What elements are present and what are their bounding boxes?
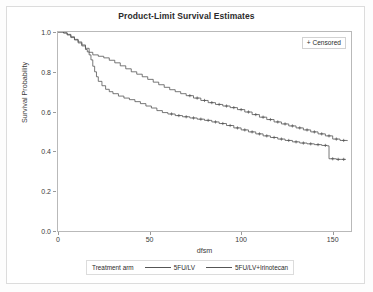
censor-mark <box>262 116 265 119</box>
censor-mark <box>294 140 297 143</box>
y-tick-label: 0.8 <box>25 68 51 75</box>
y-tick-label: 0.6 <box>25 108 51 115</box>
y-tick-label: 0.2 <box>25 188 51 195</box>
x-tick-label: 0 <box>43 236 73 243</box>
censor-mark <box>251 130 254 133</box>
legend-line-icon <box>145 267 171 268</box>
censor-mark <box>243 128 246 131</box>
censor-mark <box>240 108 243 111</box>
censor-mark <box>302 141 305 144</box>
legend-title: Treatment arm <box>92 264 134 271</box>
censor-mark <box>320 132 323 135</box>
y-tick-mark <box>53 151 56 152</box>
censor-mark <box>203 99 206 102</box>
censor-mark <box>269 118 272 121</box>
censor-mark <box>287 139 290 142</box>
censor-mark <box>214 120 217 123</box>
legend-entry-1: 5FU/LV <box>145 264 195 271</box>
censored-legend-label: + Censored <box>307 39 341 46</box>
censor-mark <box>316 143 319 146</box>
censor-mark <box>309 142 312 145</box>
legend-entry-2: 5FU/LV+Irinotecan <box>206 264 288 271</box>
censor-mark <box>236 126 239 129</box>
censor-mark <box>342 139 345 142</box>
censor-mark <box>331 157 334 160</box>
censor-mark <box>324 144 327 147</box>
censor-mark <box>298 126 301 129</box>
censor-mark <box>291 124 294 127</box>
censor-mark <box>280 137 283 140</box>
censor-mark <box>335 137 338 140</box>
x-tick-mark <box>58 232 59 235</box>
censor-mark <box>305 128 308 131</box>
censor-mark <box>258 132 261 135</box>
plot-area: + Censored <box>57 31 352 232</box>
y-tick-label: 1.0 <box>25 29 51 36</box>
censor-mark <box>225 104 228 107</box>
censor-mark <box>327 134 330 137</box>
censor-mark <box>283 122 286 125</box>
censor-mark <box>221 122 224 125</box>
censor-mark <box>199 118 202 121</box>
y-axis-title: Survival Probability <box>20 33 29 153</box>
y-tick-mark <box>53 231 56 232</box>
x-tick-label: 100 <box>226 236 256 243</box>
censor-mark <box>265 134 268 137</box>
censor-mark <box>337 158 340 161</box>
censor-mark <box>276 120 279 123</box>
x-tick-label: 150 <box>318 236 348 243</box>
y-tick-label: 0.0 <box>25 228 51 235</box>
censor-mark <box>313 130 316 133</box>
censor-mark <box>188 94 191 97</box>
censor-mark <box>254 113 257 116</box>
censor-mark <box>177 114 180 117</box>
legend: Treatment arm 5FU/LV 5FU/LV+Irinotecan <box>86 260 294 275</box>
legend-label-2: 5FU/LV+Irinotecan <box>235 264 288 271</box>
legend-line-icon <box>206 267 232 268</box>
censor-mark <box>218 103 221 106</box>
x-tick-mark <box>241 232 242 235</box>
censor-mark <box>229 124 232 127</box>
survival-curves-svg <box>58 32 351 231</box>
x-tick-label: 50 <box>135 236 165 243</box>
censor-mark <box>196 96 199 99</box>
censor-mark <box>210 101 213 104</box>
censor-mark <box>272 136 275 139</box>
y-tick-mark <box>53 191 56 192</box>
page-title: Product-Limit Survival Estimates <box>0 11 373 21</box>
censor-mark <box>247 110 250 113</box>
censor-mark <box>207 119 210 122</box>
x-tick-mark <box>150 232 151 235</box>
chart-root: Product-Limit Survival Estimates + Censo… <box>0 0 373 292</box>
y-tick-label: 0.4 <box>25 148 51 155</box>
survival-curve-1 <box>58 32 346 160</box>
y-tick-mark <box>53 32 56 33</box>
censor-mark <box>185 115 188 118</box>
censored-legend-box: + Censored <box>302 37 346 49</box>
x-axis-title: dfsm <box>57 246 352 255</box>
censor-mark <box>170 112 173 115</box>
y-tick-mark <box>53 112 56 113</box>
x-tick-mark <box>333 232 334 235</box>
legend-label-1: 5FU/LV <box>174 264 195 271</box>
y-tick-mark <box>53 72 56 73</box>
censor-mark <box>192 116 195 119</box>
censor-mark <box>342 158 345 161</box>
censor-mark <box>232 106 235 109</box>
